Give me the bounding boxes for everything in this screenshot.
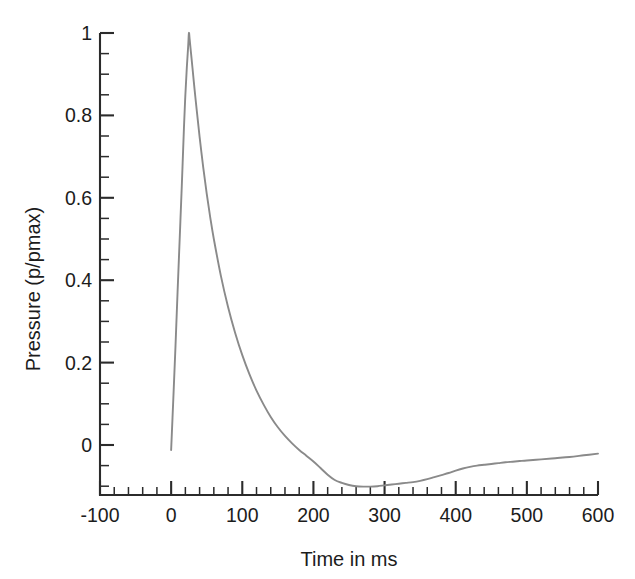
y-axis-title: Pressure (p/pmax): [22, 207, 44, 372]
y-tick-label: 0.4: [65, 269, 92, 291]
x-tick-label: 500: [511, 504, 544, 526]
chart-background: [0, 0, 635, 579]
x-axis-title: Time in ms: [300, 548, 397, 570]
x-tick-label: -100: [80, 504, 119, 526]
blast-pressure-line-chart: 00.20.40.60.81 Pressure (p/pmax) -100010…: [0, 0, 635, 579]
x-tick-label: 400: [439, 504, 472, 526]
y-tick-label: 1: [81, 22, 92, 44]
x-tick-label: 100: [226, 504, 259, 526]
x-tick-label: 0: [166, 504, 177, 526]
y-tick-label: 0.2: [65, 352, 92, 374]
x-tick-label: 600: [582, 504, 615, 526]
y-tick-label: 0: [81, 434, 92, 456]
y-tick-label: 0.6: [65, 187, 92, 209]
chart-figure: 00.20.40.60.81 Pressure (p/pmax) -100010…: [0, 0, 635, 579]
x-tick-label: 300: [368, 504, 401, 526]
y-tick-label: 0.8: [65, 104, 92, 126]
x-tick-label: 200: [297, 504, 330, 526]
